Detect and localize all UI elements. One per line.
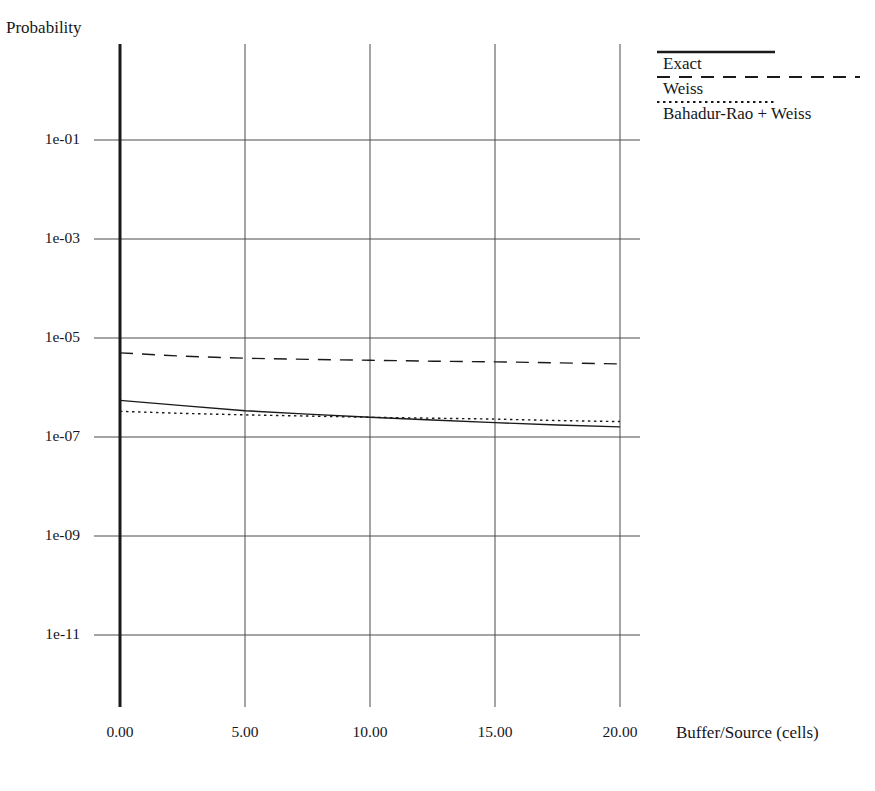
- x-tick-label-0: 0.00: [85, 723, 155, 741]
- y-tick-label-0: 1e-01: [8, 130, 80, 148]
- y-tick-label-3: 1e-07: [8, 427, 80, 445]
- y-tick-label-1: 1e-03: [8, 229, 80, 247]
- legend-label-0: Exact: [663, 54, 702, 74]
- x-tick-label-4: 20.00: [585, 723, 655, 741]
- y-tick-label-2: 1e-05: [8, 328, 80, 346]
- legend-label-1: Weiss: [663, 79, 703, 99]
- vertical-gridlines: [245, 44, 620, 707]
- y-tick-label-5: 1e-11: [8, 625, 80, 643]
- chart-figure: Probability Buffer/Source (cells) 1e-011…: [0, 0, 875, 791]
- y-tick-label-4: 1e-09: [8, 526, 80, 544]
- x-axis-label: Buffer/Source (cells): [676, 723, 819, 743]
- x-tick-label-1: 5.00: [210, 723, 280, 741]
- x-tick-label-2: 10.00: [335, 723, 405, 741]
- y-axis-label: Probability: [6, 18, 82, 38]
- x-tick-label-3: 15.00: [460, 723, 530, 741]
- legend-label-2: Bahadur-Rao + Weiss: [663, 104, 811, 124]
- horizontal-gridlines: [94, 140, 640, 635]
